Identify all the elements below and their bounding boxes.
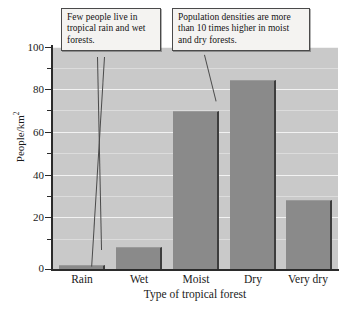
xtick-label-very-dry: Very dry — [277, 273, 339, 286]
ytick-20 — [45, 217, 51, 218]
xtick-label-dry: Dry — [223, 273, 283, 286]
bar-dry[interactable] — [230, 80, 276, 269]
ytick-label-20: 20 — [4, 212, 44, 223]
annotation-callout-right[interactable]: Population densities are more than 10 ti… — [172, 8, 310, 51]
ytick-40 — [45, 175, 51, 176]
ytick-30 — [47, 196, 51, 197]
y-axis-title-text: People/km — [14, 115, 26, 162]
bar-moist[interactable] — [173, 111, 219, 269]
bar-wet[interactable] — [116, 247, 162, 269]
ytick-60 — [45, 132, 51, 133]
gridline-80 — [52, 89, 338, 90]
x-axis-title: Type of tropical forest — [52, 288, 338, 300]
xtick-label-wet: Wet — [109, 273, 169, 286]
annotation-callout-right-text: Population densities are more than 10 ti… — [178, 12, 291, 45]
annotation-callout-left[interactable]: Few people live in tropical rain and wet… — [61, 8, 161, 51]
y-axis-title: People/km2 — [12, 82, 26, 192]
plot-area — [52, 47, 338, 269]
figure-caption-remnant — [0, 305, 362, 314]
ytick-90 — [47, 68, 51, 69]
ytick-label-100: 100 — [4, 42, 44, 53]
ytick-80 — [45, 89, 51, 90]
bar-very-dry[interactable] — [286, 200, 332, 269]
ytick-100 — [45, 47, 51, 48]
x-axis-line — [51, 269, 339, 271]
xtick-label-moist: Moist — [166, 273, 226, 286]
xtick-label-rain: Rain — [52, 273, 112, 286]
bar-chart-figure: 100 80 60 40 20 0 People/km2 Rain Wet Mo… — [0, 0, 362, 314]
ytick-label-0: 0 — [4, 263, 44, 274]
annotation-callout-left-text: Few people live in tropical rain and wet… — [67, 12, 145, 45]
ytick-10 — [47, 239, 51, 240]
y-axis-line — [51, 45, 53, 271]
ytick-70 — [47, 110, 51, 111]
y-axis-title-exponent: 2 — [12, 111, 21, 115]
ytick-50 — [47, 153, 51, 154]
ytick-0 — [45, 269, 51, 270]
gridline-90 — [52, 68, 338, 69]
